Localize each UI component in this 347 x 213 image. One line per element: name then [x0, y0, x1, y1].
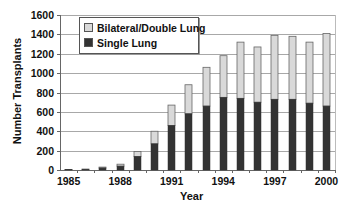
- y-tick-label: 1600: [31, 9, 55, 21]
- x-axis-label: Year: [180, 190, 203, 202]
- y-tick-label: 400: [36, 125, 54, 137]
- bar-single: [99, 168, 106, 170]
- legend-item-bilateral: Bilateral/Double Lung: [84, 22, 206, 34]
- bar-single: [254, 102, 261, 170]
- bar-single: [134, 156, 141, 170]
- bar-single: [220, 97, 227, 170]
- x-tick-label: 1985: [57, 175, 81, 187]
- stacked-bar-chart: 0200400600800100012001400160019851988199…: [0, 0, 347, 213]
- y-tick-label: 1000: [31, 67, 55, 79]
- legend-swatch-single: [84, 38, 93, 47]
- legend-label: Single Lung: [97, 37, 157, 49]
- bar-bilateral: [134, 152, 141, 157]
- x-tick-label: 1997: [263, 175, 287, 187]
- y-tick-label: 800: [36, 87, 54, 99]
- bar-single: [289, 99, 296, 170]
- bar-single: [306, 103, 313, 170]
- bar-bilateral: [117, 164, 124, 166]
- bar-bilateral: [306, 42, 313, 103]
- bar-single: [185, 114, 192, 170]
- bar-single: [323, 106, 330, 170]
- x-tick-label: 1988: [108, 175, 132, 187]
- bar-single: [117, 166, 124, 170]
- bar-single: [151, 144, 158, 170]
- bar-single: [271, 99, 278, 170]
- y-tick-label: 200: [36, 145, 54, 157]
- bar-single: [237, 98, 244, 170]
- y-tick-label: 600: [36, 106, 54, 118]
- bar-bilateral: [151, 131, 158, 144]
- bar-bilateral: [254, 47, 261, 102]
- bar-bilateral: [237, 42, 244, 98]
- y-tick-label: 1400: [31, 28, 55, 40]
- legend-swatch-bilateral: [84, 23, 93, 32]
- bar-bilateral: [203, 67, 210, 106]
- y-axis-label: Number Transplants: [11, 36, 23, 146]
- legend: Bilateral/Double Lung Single Lung: [79, 17, 199, 54]
- x-tick-label: 1994: [212, 175, 236, 187]
- legend-label: Bilateral/Double Lung: [97, 22, 206, 34]
- bar-single: [203, 106, 210, 170]
- bar-bilateral: [185, 85, 192, 114]
- y-tick-label: 0: [48, 164, 54, 176]
- legend-item-single: Single Lung: [84, 37, 157, 49]
- bar-bilateral: [220, 56, 227, 98]
- y-tick-label: 1200: [31, 48, 55, 60]
- bar-bilateral: [168, 105, 175, 125]
- x-tick-label: 1991: [160, 175, 184, 187]
- bar-bilateral: [323, 33, 330, 106]
- bar-single: [168, 125, 175, 170]
- bar-bilateral: [289, 36, 296, 99]
- x-tick-label: 2000: [315, 175, 339, 187]
- bar-bilateral: [271, 35, 278, 99]
